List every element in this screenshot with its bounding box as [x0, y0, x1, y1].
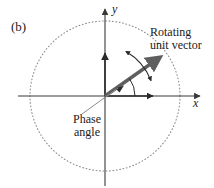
phase-angle-annotation-line2: angle: [60, 126, 114, 139]
rotating-unit-vector: [105, 58, 159, 96]
phase-angle-arc: [130, 79, 136, 97]
y-axis-label: y: [112, 3, 117, 16]
rotating-unit-vector-annotation-line1: Rotating: [150, 25, 191, 39]
phase-angle-leader-line: [82, 88, 118, 114]
rotating-unit-vector-annotation-line2: unit vector: [150, 39, 202, 52]
phase-angle-annotation: Phaseangle: [60, 113, 114, 138]
x-axis-label: x: [193, 97, 198, 110]
panel-label: (b): [11, 20, 26, 34]
rotating-unit-vector-annotation: Rotatingunit vector: [150, 26, 202, 51]
phasor-diagram-figure: (b) y x Rotatingunit vector Phaseangle: [0, 0, 214, 188]
phase-angle-annotation-line1: Phase: [73, 112, 101, 126]
